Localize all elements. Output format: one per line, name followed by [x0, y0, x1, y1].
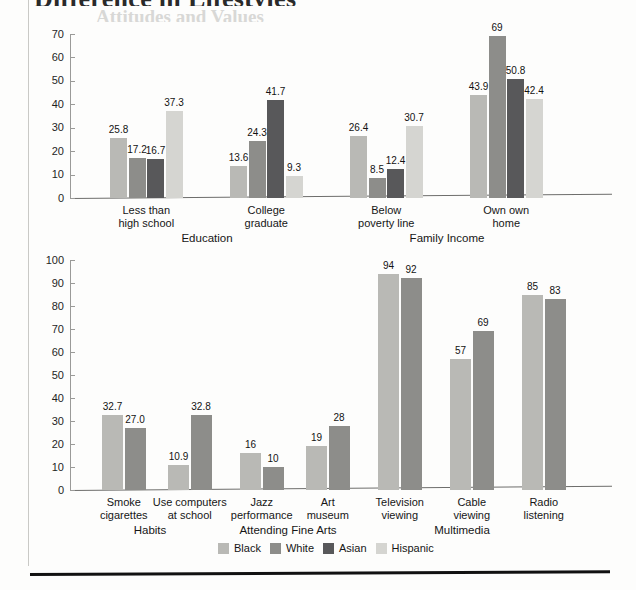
bar	[166, 111, 183, 198]
y-axis-tick	[70, 329, 75, 330]
clipped-subheading: Attitudes and Values	[96, 6, 516, 22]
bar-value-label: 37.3	[160, 98, 189, 108]
bar-value-label: 9.3	[280, 163, 309, 173]
category-label: Radiolistening	[496, 496, 592, 521]
bar-value-label: 41.7	[261, 87, 290, 97]
y-axis-tick	[70, 467, 75, 468]
group-label: Habits	[80, 524, 220, 537]
bar	[306, 446, 327, 490]
bar-value-label: 50.8	[501, 66, 530, 76]
legend-swatch-icon	[376, 543, 387, 554]
legend-item-black: Black	[218, 543, 261, 554]
y-axis-tick	[70, 260, 75, 261]
bar	[369, 178, 386, 198]
chart-top-plot: 01020304050607025.817.216.737.3Less than…	[32, 26, 612, 236]
y-axis-label: 50	[30, 370, 64, 381]
page-edge-line	[28, 0, 29, 566]
y-axis-label: 0	[30, 193, 64, 204]
y-axis-label: 20	[30, 146, 64, 157]
y-axis-label: 90	[30, 278, 64, 289]
bar	[470, 95, 487, 198]
bar	[473, 331, 494, 490]
y-axis-label: 60	[30, 52, 64, 63]
y-axis-tick	[70, 490, 75, 491]
bar-value-label: 69	[483, 23, 512, 33]
bar	[249, 141, 266, 198]
bar	[450, 359, 471, 490]
y-axis-tick	[70, 306, 75, 307]
bar	[102, 415, 123, 490]
bar-value-label: 83	[539, 286, 572, 296]
legend-label: Black	[234, 543, 261, 554]
y-axis-label: 50	[30, 75, 64, 86]
y-axis-tick	[70, 352, 75, 353]
y-axis-tick	[70, 175, 75, 176]
y-axis-label: 30	[30, 122, 64, 133]
bar	[125, 428, 146, 490]
bar	[191, 415, 212, 490]
bar	[129, 158, 146, 198]
legend: BlackWhiteAsianHispanic	[218, 543, 434, 554]
y-axis-label: 40	[30, 393, 64, 404]
legend-swatch-icon	[270, 543, 281, 554]
y-axis-tick	[70, 104, 75, 105]
group-label: Family Income	[377, 232, 517, 245]
y-axis-label: 70	[30, 324, 64, 335]
bar-value-label: 32.8	[185, 402, 218, 412]
bar-value-label: 69	[467, 318, 500, 328]
bar-value-label: 42.4	[520, 86, 549, 96]
bar-value-label: 10	[257, 454, 290, 464]
bar	[263, 467, 284, 490]
chart-bottom-plot: 010203040506070809010032.727.0Smokecigar…	[32, 250, 612, 535]
y-axis-tick	[70, 128, 75, 129]
legend-swatch-icon	[218, 543, 229, 554]
y-axis-label: 100	[30, 255, 64, 266]
bar-value-label: 30.7	[400, 113, 429, 123]
y-axis-tick	[70, 151, 75, 152]
bar-value-label: 26.4	[344, 123, 373, 133]
chart-bottom: 010203040506070809010032.727.0Smokecigar…	[32, 250, 612, 535]
group-label: Multimedia	[392, 524, 532, 537]
legend-label: Hispanic	[392, 543, 434, 554]
y-axis-tick	[70, 198, 75, 199]
legend-label: Asian	[339, 543, 367, 554]
bar-value-label: 16	[234, 440, 267, 450]
bar-value-label: 28	[323, 413, 356, 423]
y-axis-label: 60	[30, 347, 64, 358]
y-axis-label: 20	[30, 439, 64, 450]
group-label: Attending Fine Arts	[218, 524, 358, 537]
bar	[286, 176, 303, 198]
legend-item-hispanic: Hispanic	[376, 543, 434, 554]
y-axis-label: 40	[30, 99, 64, 110]
y-axis-label: 10	[30, 462, 64, 473]
bar	[230, 166, 247, 198]
category-label: Own ownhome	[458, 204, 554, 229]
bar	[378, 274, 399, 490]
bar-value-label: 32.7	[96, 402, 129, 412]
y-axis-label: 10	[30, 169, 64, 180]
category-label: Less thanhigh school	[98, 204, 194, 229]
y-axis-tick	[70, 444, 75, 445]
y-axis-tick	[70, 34, 75, 35]
y-axis-tick	[70, 421, 75, 422]
bottom-rule	[30, 570, 610, 576]
y-axis-label: 30	[30, 416, 64, 427]
bar	[545, 299, 566, 490]
chart-top: 01020304050607025.817.216.737.3Less than…	[32, 26, 612, 236]
legend-item-asian: Asian	[323, 543, 367, 554]
bar	[526, 99, 543, 198]
y-axis-tick	[70, 57, 75, 58]
y-axis-label: 0	[30, 485, 64, 496]
bar	[168, 465, 189, 490]
y-axis-tick	[70, 398, 75, 399]
bar-value-label: 92	[395, 265, 428, 275]
legend-label: White	[286, 543, 314, 554]
y-axis-label: 80	[30, 301, 64, 312]
bar-value-label: 27.0	[119, 415, 152, 425]
y-axis-label: 70	[30, 29, 64, 40]
bar-value-label: 25.8	[104, 125, 133, 135]
bar	[489, 36, 506, 198]
figure-page: Difference in Lifestyles Attitudes and V…	[0, 0, 636, 590]
bar	[401, 278, 422, 490]
bar	[147, 159, 164, 198]
